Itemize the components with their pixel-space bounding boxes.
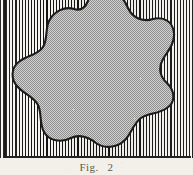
figure-page: Fig.2 [0, 0, 193, 175]
caption-label: Fig. [80, 161, 99, 173]
figure-caption: Fig.2 [0, 161, 193, 175]
blob-shape-group [13, 0, 175, 147]
blob-container [0, 0, 193, 158]
panel-left-rule [4, 0, 6, 158]
hatched-figure-panel [0, 0, 193, 158]
blob-path [13, 0, 175, 147]
lobed-blob-svg [0, 0, 193, 158]
caption-number: 2 [108, 161, 114, 173]
panel-bottom-rule [3, 156, 191, 158]
